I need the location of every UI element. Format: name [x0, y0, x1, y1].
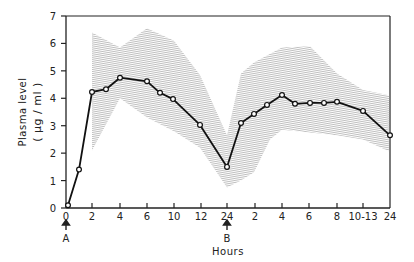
data-point-marker	[104, 87, 109, 92]
data-point-marker	[66, 203, 71, 208]
x-ticks: 0246101224246810-1324	[63, 203, 397, 222]
y-tick-label: 5	[50, 66, 56, 77]
data-point-marker	[77, 167, 82, 172]
y-tick-label: 1	[50, 176, 56, 187]
data-point-marker	[388, 133, 393, 138]
x-tick-label: 6	[144, 211, 150, 222]
x-tick-label: 10	[168, 211, 181, 222]
data-point-marker	[293, 101, 298, 106]
data-point-marker	[145, 79, 150, 84]
x-tick-label: 12	[195, 211, 208, 222]
range-band	[92, 28, 390, 187]
x-tick-label: 2	[89, 211, 95, 222]
data-point-marker	[225, 165, 230, 170]
data-point-marker	[239, 121, 244, 126]
x-tick-label: 6	[306, 211, 312, 222]
data-point-marker	[280, 93, 285, 98]
x-tick-label: 10-13	[348, 211, 377, 222]
data-point-marker	[335, 99, 340, 104]
x-tick-label: 24	[384, 211, 397, 222]
plasma-level-chart: 01234567 0246101224246810-1324 Plasma le…	[0, 0, 414, 262]
x-axis-title: Hours	[212, 246, 244, 257]
data-point-marker	[118, 75, 123, 80]
y-tick-label: 3	[50, 121, 56, 132]
y-tick-label: 4	[50, 93, 56, 104]
annotation-a-label: A	[63, 233, 70, 244]
y-tick-label: 6	[50, 38, 56, 49]
x-tick-label: 4	[279, 211, 285, 222]
x-tick-label: 4	[117, 211, 123, 222]
data-point-marker	[198, 123, 203, 128]
data-point-marker	[308, 101, 313, 106]
x-tick-label: 2	[252, 211, 258, 222]
data-point-marker	[90, 90, 95, 95]
y-tick-label: 7	[50, 11, 56, 22]
data-point-marker	[158, 90, 163, 95]
y-axis-title: Plasma level	[17, 78, 28, 147]
annotation-b-label: B	[224, 233, 231, 244]
data-point-marker	[252, 112, 257, 117]
annotation-a: A	[63, 220, 70, 244]
y-tick-label: 0	[50, 203, 56, 214]
annotation-b: B	[224, 220, 231, 244]
data-point-marker	[171, 97, 176, 102]
y-ticks: 01234567	[50, 11, 66, 214]
y-tick-label: 2	[50, 148, 56, 159]
x-tick-label: 8	[334, 211, 340, 222]
y-axis-units: ( µg / ml )	[31, 82, 44, 142]
data-point-marker	[361, 109, 366, 114]
data-point-marker	[265, 103, 270, 108]
data-point-marker	[322, 101, 327, 106]
